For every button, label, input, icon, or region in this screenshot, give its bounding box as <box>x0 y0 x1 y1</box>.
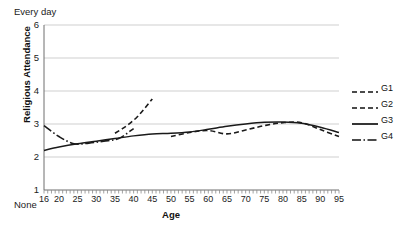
legend-label: G1 <box>381 83 393 93</box>
series-line-g1 <box>115 99 152 133</box>
legend-swatch-icon <box>352 99 378 109</box>
legend-item-g2[interactable]: G2 <box>352 96 402 112</box>
legend-swatch-icon <box>352 131 378 141</box>
legend-item-g4[interactable]: G4 <box>352 128 402 144</box>
legend-label: G2 <box>381 99 393 109</box>
legend-item-g1[interactable]: G1 <box>352 80 402 96</box>
religious-attendance-chart: Every day None Religious Attendance Age … <box>0 0 402 231</box>
legend-label: G4 <box>381 131 393 141</box>
legend-item-g3[interactable]: G3 <box>352 112 402 128</box>
axis-lines <box>44 25 339 190</box>
x-axis-tick-marks <box>44 190 339 194</box>
gridlines <box>44 25 339 190</box>
legend-swatch-icon <box>352 115 378 125</box>
data-series-layer <box>44 99 339 150</box>
plot-area <box>0 0 402 231</box>
chart-legend: G1G2G3G4 <box>352 80 402 144</box>
legend-swatch-icon <box>352 83 378 93</box>
series-line-g3 <box>44 122 339 150</box>
legend-label: G3 <box>381 115 393 125</box>
